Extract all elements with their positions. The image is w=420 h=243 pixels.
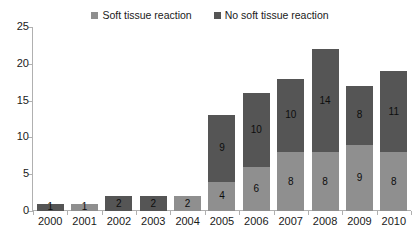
bar-segment[interactable]: 8	[277, 152, 304, 211]
x-axis-label: 2004	[170, 215, 204, 228]
bar-value-label: 9	[219, 143, 225, 153]
legend-swatch-icon	[91, 12, 98, 19]
bar-group[interactable]: 148	[308, 27, 342, 211]
bar-segment[interactable]: 2	[105, 196, 132, 211]
bar-group[interactable]: 2	[102, 27, 136, 211]
x-axis-labels: 2000200120022003200420052006200720082009…	[33, 215, 411, 228]
bar-segment[interactable]: 2	[174, 196, 201, 211]
bar-group[interactable]: 89	[342, 27, 376, 211]
bar-value-label: 8	[391, 177, 397, 187]
bar-stack[interactable]: 148	[312, 49, 339, 211]
x-axis-label: 2007	[274, 215, 308, 228]
bar-stack[interactable]: 118	[380, 71, 407, 211]
y-tick-label: 0	[23, 204, 29, 217]
bar-value-label: 2	[116, 199, 122, 209]
chart-legend: Soft tissue reactionNo soft tissue react…	[0, 10, 420, 21]
bar-segment[interactable]: 4	[208, 182, 235, 211]
bar-stack[interactable]: 1	[71, 204, 98, 211]
bar-stack[interactable]: 89	[346, 86, 373, 211]
stacked-bar-chart: Soft tissue reactionNo soft tissue react…	[0, 0, 420, 243]
legend-label: No soft tissue reaction	[225, 10, 329, 21]
x-tick-mark	[411, 211, 412, 215]
bar-stack[interactable]: 2	[174, 196, 201, 211]
y-tick-label: 10	[17, 130, 29, 143]
bar-value-label: 2	[150, 199, 156, 209]
legend-entry[interactable]: Soft tissue reaction	[91, 10, 191, 21]
bar-group[interactable]: 2	[136, 27, 170, 211]
bar-group[interactable]: 118	[377, 27, 411, 211]
bar-segment[interactable]: 11	[380, 71, 407, 152]
y-tick-label: 25	[17, 20, 29, 33]
bar-group[interactable]: 94	[205, 27, 239, 211]
bar-value-label: 4	[219, 191, 225, 201]
bar-value-label: 2	[185, 199, 191, 209]
bar-stack[interactable]: 94	[208, 115, 235, 211]
bar-segment[interactable]: 10	[277, 79, 304, 153]
bar-segment[interactable]: 14	[312, 49, 339, 152]
bar-group[interactable]: 1	[33, 27, 67, 211]
x-axis-label: 2006	[239, 215, 273, 228]
plot-area: 0510152025 112229410610814889118	[32, 27, 411, 211]
x-axis-label: 2001	[67, 215, 101, 228]
bar-value-label: 8	[288, 177, 294, 187]
bar-stack[interactable]: 2	[105, 196, 132, 211]
x-axis-label: 2010	[377, 215, 411, 228]
legend-entry[interactable]: No soft tissue reaction	[214, 10, 329, 21]
bar-value-label: 6	[254, 184, 260, 194]
bar-group[interactable]: 2	[170, 27, 204, 211]
x-axis-label: 2005	[205, 215, 239, 228]
bar-value-label: 10	[285, 110, 296, 120]
x-axis-label: 2000	[33, 215, 67, 228]
bar-stack[interactable]: 106	[243, 93, 270, 211]
bar-group[interactable]: 108	[274, 27, 308, 211]
legend-label: Soft tissue reaction	[102, 10, 191, 21]
bar-value-label: 8	[322, 177, 328, 187]
legend-swatch-icon	[214, 12, 221, 19]
bar-segment[interactable]: 1	[37, 204, 64, 211]
bar-stack[interactable]: 1	[37, 204, 64, 211]
bar-segment[interactable]: 9	[208, 115, 235, 181]
bar-value-label: 1	[82, 202, 88, 212]
bar-value-label: 14	[319, 96, 330, 106]
x-axis-label: 2009	[342, 215, 376, 228]
x-axis-label: 2003	[136, 215, 170, 228]
x-axis-label: 2002	[102, 215, 136, 228]
x-axis-label: 2008	[308, 215, 342, 228]
bar-segment[interactable]: 2	[140, 196, 167, 211]
y-tick-label: 15	[17, 94, 29, 107]
bar-segment[interactable]: 6	[243, 167, 270, 211]
bar-group[interactable]: 106	[239, 27, 273, 211]
bar-segment[interactable]: 8	[380, 152, 407, 211]
bar-value-label: 1	[47, 202, 53, 212]
bar-value-label: 8	[357, 110, 363, 120]
bar-segment[interactable]: 1	[71, 204, 98, 211]
bar-stack[interactable]: 2	[140, 196, 167, 211]
bar-value-label: 11	[389, 107, 399, 117]
bar-segment[interactable]: 8	[346, 86, 373, 145]
bar-group[interactable]: 1	[67, 27, 101, 211]
bar-segment[interactable]: 8	[312, 152, 339, 211]
bar-segment[interactable]: 9	[346, 145, 373, 211]
bar-segment[interactable]: 10	[243, 93, 270, 167]
y-tick-label: 20	[17, 57, 29, 70]
bar-value-label: 9	[357, 173, 363, 183]
y-tick-label: 5	[23, 167, 29, 180]
bar-value-label: 10	[251, 125, 262, 135]
bar-stack[interactable]: 108	[277, 79, 304, 211]
bar-series-container: 112229410610814889118	[33, 27, 411, 211]
